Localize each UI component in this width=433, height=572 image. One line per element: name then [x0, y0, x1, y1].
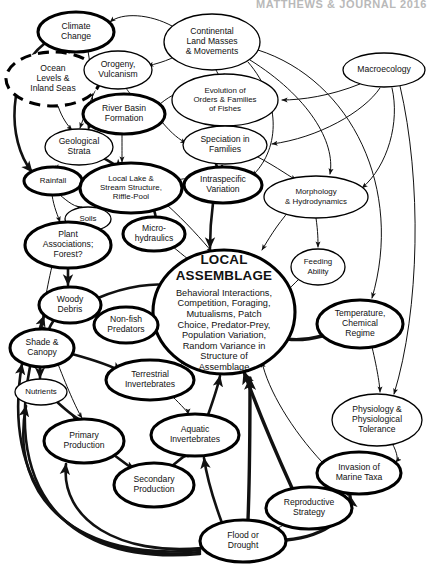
edge-river_basin-to-speciation — [162, 122, 186, 143]
node-local_lake[interactable]: Local Lake &Stream Structure,Riffle-Pool — [80, 163, 182, 213]
node-outline-local_lake — [80, 163, 182, 213]
node-outline-woody_debris — [39, 287, 101, 323]
node-outline-geological_strata — [45, 129, 113, 165]
node-nutrients[interactable]: Nutrients — [15, 379, 67, 405]
node-outline-ocean_levels — [6, 52, 100, 106]
node-outline-continental_masses — [164, 14, 260, 70]
node-speciation[interactable]: Speciation inFamilies — [183, 126, 267, 164]
node-outline-speciation — [183, 126, 267, 164]
node-outline-macroecology — [343, 53, 425, 87]
node-rainfall[interactable]: Rainfall — [24, 167, 82, 195]
node-outline-intraspecific — [184, 167, 262, 203]
edge-flood_drought-to-local_assemblage — [248, 378, 250, 520]
edge-flood_drought-to-aquatic_inverts — [204, 458, 222, 523]
node-outline-evolution_orders — [172, 74, 278, 126]
node-invasion_marine[interactable]: Invasion ofMarine Taxa — [317, 452, 401, 494]
node-outline-secondary_production — [114, 463, 194, 507]
node-outline-non_fish_predators — [94, 307, 158, 343]
edge-aquatic_inverts-to-local_assemblage — [208, 376, 220, 415]
node-outline-shade_canopy — [10, 329, 74, 367]
node-aquatic_inverts[interactable]: AquaticInvertebrates — [151, 414, 239, 456]
node-outline-local_assemblage — [153, 250, 295, 374]
node-temperature_chem[interactable]: Temperature,ChemicalRegime — [317, 300, 403, 348]
edge-terrestrial_inverts-to-aquatic_inverts — [172, 396, 188, 414]
edge-rainfall-to-plant_associations — [52, 195, 60, 222]
node-climate_change[interactable]: ClimateChange — [38, 12, 114, 52]
node-macroecology[interactable]: Macroecology — [343, 53, 425, 87]
diagram-canvas: ClimateChangeOceanLevels &Inland SeasOro… — [0, 0, 433, 572]
node-outline-temperature_chem — [317, 300, 403, 348]
node-orogeny_vulcanism[interactable]: Orogeny,Vulcanism — [84, 51, 152, 89]
node-outline-river_basin — [83, 94, 165, 134]
edge-rainfall-to-soils — [60, 195, 82, 207]
node-shade_canopy[interactable]: Shade &Canopy — [10, 329, 74, 367]
node-primary_production[interactable]: PrimaryProduction — [44, 419, 124, 463]
edge-macroecology-to-speciation — [272, 88, 380, 144]
node-layer: ClimateChangeOceanLevels &Inland SeasOro… — [6, 12, 425, 562]
node-outline-micro_hydraulics — [123, 217, 185, 251]
node-micro_hydraulics[interactable]: Micro-hydraulics — [123, 217, 185, 251]
edge-ocean_levels-to-geological_strata — [58, 106, 72, 130]
causal-diagram: MATTHEWS & JOURNAL 2016 ClimateChangeOce… — [0, 0, 433, 572]
node-woody_debris[interactable]: WoodyDebris — [39, 287, 101, 323]
node-outline-plant_associations — [25, 222, 111, 268]
node-secondary_production[interactable]: SecondaryProduction — [114, 463, 194, 507]
node-ocean_levels[interactable]: OceanLevels &Inland Seas — [6, 52, 100, 106]
node-outline-orogeny_vulcanism — [84, 51, 152, 89]
node-plant_associations[interactable]: PlantAssociations;Forest? — [25, 222, 111, 268]
node-flood_drought[interactable]: Flood orDrought — [200, 520, 286, 562]
node-non_fish_predators[interactable]: Non-fishPredators — [94, 307, 158, 343]
node-outline-primary_production — [44, 419, 124, 463]
node-morphology[interactable]: Morphology& Hydrodynamics — [264, 176, 368, 218]
edge-intraspecific-to-local_assemblage — [210, 203, 213, 248]
node-geological_strata[interactable]: GeologicalStrata — [45, 129, 113, 165]
edge-morphology-to-local_assemblage — [262, 210, 290, 250]
edge-continental_masses-to-climate_change — [110, 16, 172, 26]
edge-morphology-to-feeding_ability — [316, 218, 318, 247]
node-outline-invasion_marine — [317, 452, 401, 494]
node-outline-nutrients — [15, 379, 67, 405]
node-river_basin[interactable]: River BasinFormation — [83, 94, 165, 134]
node-feeding_ability[interactable]: FeedingAbility — [291, 249, 345, 285]
node-intraspecific[interactable]: IntraspecificVariation — [184, 167, 262, 203]
edge-temperature_chem-to-physiology — [372, 347, 380, 392]
node-physiology[interactable]: Physiology &PhysiologicalTolerance — [332, 394, 422, 446]
node-outline-aquatic_inverts — [151, 414, 239, 456]
node-outline-physiology — [332, 394, 422, 446]
node-outline-reproductive_strategy — [266, 487, 352, 529]
node-reproductive_strategy[interactable]: ReproductiveStrategy — [266, 487, 352, 529]
node-outline-climate_change — [38, 12, 114, 52]
edge-invasion_marine-to-local_assemblage — [262, 362, 322, 462]
node-continental_masses[interactable]: ContinentalLand Masses& Movements — [164, 14, 260, 70]
node-evolution_orders[interactable]: Evolution ofOrders & Familiesof Fishes — [172, 74, 278, 126]
node-outline-rainfall — [24, 167, 82, 195]
node-outline-feeding_ability — [291, 249, 345, 285]
node-outline-terrestrial_inverts — [106, 360, 194, 400]
node-local_assemblage[interactable]: LOCALASSEMBLAGEBehavioral Interactions,C… — [153, 250, 295, 374]
node-outline-morphology — [264, 176, 368, 218]
edge-macroecology-to-evolution_orders — [282, 84, 360, 100]
node-outline-flood_drought — [200, 520, 286, 562]
edge-macroecology-to-physiology — [394, 86, 415, 394]
node-terrestrial_inverts[interactable]: TerrestrialInvertebrates — [106, 360, 194, 400]
